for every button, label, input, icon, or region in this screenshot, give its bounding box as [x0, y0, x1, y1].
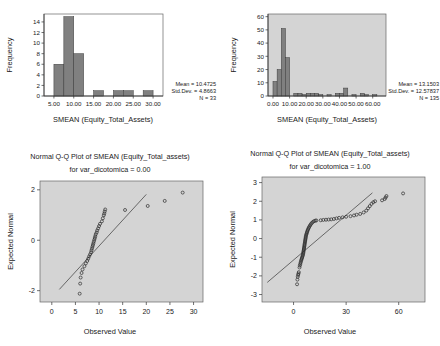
- y-tick-label: -2: [251, 272, 257, 279]
- x-tick-label: 20.00: [106, 100, 122, 107]
- chart-subtitle: for var_dicotomica = 0.00: [70, 165, 151, 174]
- x-axis-label: SMEAN (Equity_Total_Assets): [277, 115, 377, 124]
- stddev-annotation: Std.Dev. = 12.57837: [388, 88, 439, 94]
- stddev-annotation: Std.Dev. = 4.8663: [171, 88, 216, 94]
- chart-title: Normal Q-Q Plot of SMEAN (Equity_Total_a…: [30, 152, 189, 161]
- histogram-bar: [281, 29, 285, 96]
- x-tick-label: 30: [342, 308, 350, 315]
- y-tick-label: 0: [261, 92, 265, 99]
- x-tick-label: 5: [73, 308, 77, 315]
- y-tick-label: 2: [31, 186, 35, 193]
- histogram-0: 024681012145.0010.0015.0020.0025.0030.00…: [0, 0, 220, 145]
- x-tick-label: 30.00: [315, 100, 331, 107]
- histogram-bar: [113, 91, 123, 96]
- y-tick-label: 12: [33, 29, 40, 36]
- histogram-bar: [273, 81, 277, 96]
- x-tick-label: 30: [190, 308, 198, 315]
- x-tick-label: 20: [142, 308, 150, 315]
- y-tick-label: 2: [37, 82, 41, 89]
- y-tick-label: 0: [31, 237, 35, 244]
- x-tick-label: 10: [95, 308, 103, 315]
- y-tick-label: 6: [37, 60, 41, 67]
- y-axis-label: Frequency: [5, 37, 14, 72]
- x-tick-label: 30.00: [145, 100, 161, 107]
- histogram-panel-1: 01020304050600.0010.0020.0030.0040.0050.…: [220, 0, 440, 145]
- x-tick-label: 0: [292, 308, 296, 315]
- x-tick-label: 10.00: [282, 100, 298, 107]
- y-tick-label: 0: [37, 92, 41, 99]
- chart-subtitle: for var_dicotomica = 1.00: [290, 162, 371, 171]
- qq-panel-0: Normal Q-Q Plot of SMEAN (Equity_Total_a…: [0, 145, 220, 346]
- x-tick-label: 0.00: [267, 100, 280, 107]
- x-tick-label: 60: [395, 308, 403, 315]
- y-axis-label: Expected Normal: [6, 213, 15, 270]
- x-tick-label: 0: [50, 308, 54, 315]
- x-tick-label: 15.00: [86, 100, 102, 107]
- y-tick-label: 14: [33, 18, 40, 25]
- y-tick-label: 20: [257, 66, 264, 73]
- n-annotation: N = 33: [199, 95, 216, 101]
- x-tick-label: 60.00: [365, 100, 381, 107]
- y-tick-label: 0: [253, 235, 257, 242]
- histogram-bar: [74, 54, 84, 96]
- histogram-1: 01020304050600.0010.0020.0030.0040.0050.…: [220, 0, 440, 145]
- y-axis-label: Expected Normal: [228, 211, 237, 268]
- y-tick-label: 30: [257, 53, 264, 60]
- x-tick-label: 25.00: [126, 100, 142, 107]
- x-tick-label: 5.00: [48, 100, 61, 107]
- y-tick-label: 40: [257, 39, 264, 46]
- x-axis-label: SMEAN (Equity_Total_Assets): [53, 115, 153, 124]
- y-tick-label: 10: [33, 39, 40, 46]
- y-tick-label: 1: [253, 216, 257, 223]
- y-tick-label: -2: [29, 287, 35, 294]
- plot-area: [262, 177, 425, 302]
- x-tick-label: 25: [166, 308, 174, 315]
- x-tick-label: 40.00: [332, 100, 348, 107]
- y-tick-label: 2: [253, 198, 257, 205]
- x-tick-label: 10.00: [66, 100, 82, 107]
- x-axis-label: Observed Value: [84, 327, 136, 336]
- y-tick-label: -1: [251, 254, 257, 261]
- histogram-bar: [143, 91, 153, 96]
- histogram-bar: [123, 91, 133, 96]
- y-tick-label: 60: [257, 13, 264, 20]
- qqplot-0: Normal Q-Q Plot of SMEAN (Equity_Total_a…: [0, 145, 220, 346]
- y-tick-label: 50: [257, 26, 264, 33]
- n-annotation: N = 135: [419, 95, 439, 101]
- x-axis-label: Observed Value: [304, 327, 356, 336]
- y-tick-label: 3: [253, 179, 257, 186]
- histogram-panel-0: 024681012145.0010.0015.0020.0025.0030.00…: [0, 0, 220, 145]
- histogram-bar: [94, 91, 104, 96]
- y-tick-label: -3: [251, 291, 257, 298]
- y-tick-label: 8: [37, 50, 41, 57]
- histogram-bar: [285, 58, 289, 96]
- histogram-bar: [54, 64, 64, 96]
- histogram-bar: [344, 88, 348, 96]
- histogram-bar: [64, 17, 74, 96]
- histogram-bar: [277, 70, 281, 96]
- x-tick-label: 20.00: [298, 100, 314, 107]
- y-tick-label: 10: [257, 79, 264, 86]
- qqplot-1: Normal Q-Q Plot of SMEAN (Equity_Total_a…: [220, 145, 440, 346]
- y-tick-label: 4: [37, 71, 41, 78]
- qq-panel-1: Normal Q-Q Plot of SMEAN (Equity_Total_a…: [220, 145, 440, 346]
- mean-annotation: Mean = 13.1503: [398, 81, 439, 87]
- mean-annotation: Mean = 10.4725: [175, 81, 216, 87]
- x-tick-label: 50.00: [348, 100, 364, 107]
- x-tick-label: 15: [119, 308, 127, 315]
- y-axis-label: Frequency: [229, 37, 238, 72]
- chart-title: Normal Q-Q Plot of SMEAN (Equity_Total_a…: [250, 149, 409, 158]
